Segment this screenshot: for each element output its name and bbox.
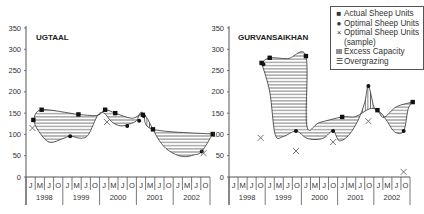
optimal-marker [68, 134, 72, 138]
year-label: 1999 [275, 193, 292, 202]
actual-marker [340, 115, 344, 119]
quarter-label: J [47, 181, 51, 190]
y-tick-label: 100 [211, 130, 224, 139]
y-tick-label: 150 [8, 109, 21, 118]
quarter-label: O [403, 181, 409, 190]
year-label: 1999 [73, 193, 90, 202]
vertical-hatch-icon: III [334, 47, 344, 57]
legend-item-sample-cont: (sample) [334, 38, 420, 48]
actual-marker [31, 118, 35, 122]
y-tick-label: 350 [8, 24, 21, 33]
quarter-label: J [102, 181, 106, 190]
y-tick-label: 250 [211, 66, 224, 75]
quarter-label: M [312, 181, 318, 190]
quarter-label: J [376, 181, 380, 190]
legend-label: Excess Capacity [344, 47, 405, 57]
y-tick-label: 200 [211, 87, 224, 96]
y-tick-label: 50 [216, 151, 224, 160]
quarter-label: J [176, 181, 180, 190]
actual-marker [411, 100, 415, 104]
quarter-label: O [55, 181, 61, 190]
quarter-label: O [166, 181, 172, 190]
year-label: 2001 [347, 193, 364, 202]
sample-marker [104, 119, 110, 125]
quarter-label: M [110, 181, 116, 190]
optimal-marker [261, 62, 265, 66]
y-tick-label: 250 [8, 66, 21, 75]
square-marker-icon: ■ [334, 9, 344, 19]
quarter-label: J [304, 181, 308, 190]
quarter-label: J [268, 181, 272, 190]
quarter-label: O [92, 181, 98, 190]
quarter-label: M [276, 181, 282, 190]
optimal-marker [125, 124, 129, 128]
actual-marker [113, 111, 117, 115]
quarter-label: O [366, 181, 372, 190]
sample-marker [401, 169, 407, 175]
quarter-label: J [322, 181, 326, 190]
quarter-label: M [73, 181, 79, 190]
quarter-label: O [294, 181, 300, 190]
quarter-label: J [250, 181, 254, 190]
quarter-label: M [239, 181, 245, 190]
legend-item-overgrazing: ☰ Overgrazing [334, 57, 420, 67]
year-label: 2002 [183, 193, 200, 202]
legend-label: Actual Sheep Units [344, 9, 414, 19]
quarter-label: J [194, 181, 198, 190]
legend-label: Optimal Sheep Units [344, 28, 419, 38]
y-tick-label: 200 [8, 87, 21, 96]
actual-marker [76, 112, 80, 116]
quarter-label: M [384, 181, 390, 190]
panel-title: UGTAAL [36, 33, 69, 42]
legend-label: (sample) [344, 38, 376, 48]
actual-marker [268, 56, 272, 60]
actual-marker [151, 127, 155, 131]
quarter-label: J [139, 181, 143, 190]
quarter-label: O [129, 181, 135, 190]
quarter-label: O [202, 181, 208, 190]
circle-marker-icon: ● [334, 19, 344, 29]
quarter-label: M [184, 181, 190, 190]
legend-item-optimal: ● Optimal Sheep Units [334, 19, 420, 29]
y-tick-label: 0 [17, 173, 21, 182]
quarter-label: M [348, 181, 354, 190]
y-tick-label: 300 [8, 45, 21, 54]
panel-title: GURVANSAIKHAN [238, 33, 309, 42]
actual-marker [39, 108, 43, 112]
x-marker-icon: × [334, 28, 344, 38]
legend-label: Overgrazing [344, 57, 389, 67]
quarter-label: J [84, 181, 88, 190]
actual-marker [375, 108, 379, 112]
quarter-label: J [395, 181, 399, 190]
legend: ■ Actual Sheep Units ● Optimal Sheep Uni… [330, 6, 424, 70]
y-tick-label: 350 [211, 24, 224, 33]
quarter-label: J [286, 181, 290, 190]
sample-marker [293, 148, 299, 154]
year-label: 2000 [311, 193, 328, 202]
chart-ugtaal: 050100150200250300350JMJOJMJOJMJOJMJOJMJ… [8, 24, 214, 205]
y-tick-label: 0 [220, 173, 224, 182]
sample-marker [29, 125, 35, 131]
optimal-marker [366, 84, 370, 88]
year-label: 2001 [146, 193, 163, 202]
figure: 050100150200250300350JMJOJMJOJMJOJMJOJMJ… [0, 0, 424, 214]
quarter-label: J [66, 181, 70, 190]
quarter-label: M [147, 181, 153, 190]
optimal-marker [331, 129, 335, 133]
quarter-label: J [232, 181, 236, 190]
year-label: 1998 [239, 193, 256, 202]
sample-marker [258, 135, 264, 141]
quarter-label: O [330, 181, 336, 190]
legend-item-sample: × Optimal Sheep Units [334, 28, 420, 38]
y-tick-label: 50 [13, 151, 21, 160]
sample-marker [365, 118, 371, 124]
quarter-label: O [258, 181, 264, 190]
actual-marker [103, 108, 107, 112]
quarter-label: J [29, 181, 33, 190]
year-label: 2002 [384, 193, 401, 202]
quarter-label: M [37, 181, 43, 190]
actual-marker [304, 54, 308, 58]
overgrazing-region [385, 102, 413, 133]
legend-item-actual: ■ Actual Sheep Units [334, 9, 420, 19]
sample-marker [330, 139, 336, 145]
